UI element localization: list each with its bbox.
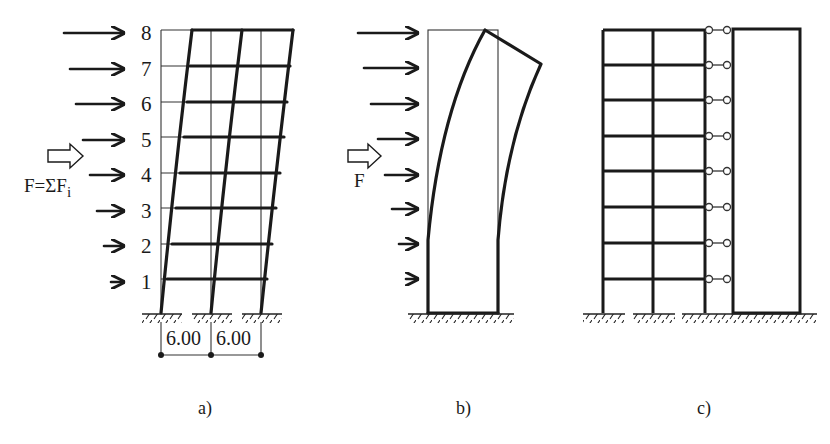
hinge-icon bbox=[724, 97, 731, 104]
floor-label: 6 bbox=[141, 92, 152, 116]
resultant-arrow-icon bbox=[48, 144, 83, 168]
link-member bbox=[706, 204, 731, 211]
hinge-icon bbox=[706, 97, 713, 104]
floor-label: 8 bbox=[141, 21, 152, 45]
floor-label: 3 bbox=[141, 199, 152, 223]
shear-wall-c bbox=[733, 29, 800, 313]
floor-label: 7 bbox=[141, 57, 152, 81]
deformed-wall bbox=[428, 30, 541, 313]
link-member bbox=[706, 240, 731, 247]
hinge-icon bbox=[706, 27, 713, 34]
bay-width-label: 6.00 bbox=[216, 327, 251, 349]
link-member bbox=[706, 168, 731, 175]
floor-label: 2 bbox=[141, 234, 152, 258]
hinge-icon bbox=[706, 62, 713, 69]
deformed-frame bbox=[161, 30, 293, 313]
resultant-label: F bbox=[354, 170, 365, 191]
floor-label: 1 bbox=[141, 270, 152, 294]
hinge-icon bbox=[706, 133, 713, 140]
caption-b: b) bbox=[456, 398, 471, 419]
caption-a: a) bbox=[198, 398, 212, 419]
panel-b: F bbox=[348, 30, 541, 323]
link-member bbox=[706, 27, 731, 34]
hinge-icon bbox=[706, 276, 713, 283]
link-member bbox=[706, 133, 731, 140]
fixed-support-b bbox=[408, 314, 514, 323]
floor-labels: 8 7 6 5 4 3 2 1 bbox=[141, 21, 152, 294]
resultant-arrow-icon bbox=[348, 144, 381, 168]
structural-diagram: 8 7 6 5 4 3 2 1 F=ΣFi bbox=[0, 0, 830, 444]
resultant-label: F=ΣFi bbox=[24, 175, 71, 200]
hinge-icon bbox=[724, 168, 731, 175]
hinge-icon bbox=[724, 62, 731, 69]
pinned-links bbox=[706, 27, 731, 283]
panel-a: 8 7 6 5 4 3 2 1 F=ΣFi bbox=[24, 21, 293, 358]
fixed-supports-a bbox=[142, 314, 282, 323]
panel-c bbox=[583, 27, 817, 324]
hinge-icon bbox=[724, 240, 731, 247]
bay-dimensions: 6.00 6.00 bbox=[158, 322, 264, 358]
hinge-icon bbox=[706, 204, 713, 211]
bay-width-label: 6.00 bbox=[166, 327, 201, 349]
hinge-icon bbox=[724, 133, 731, 140]
hinge-icon bbox=[724, 27, 731, 34]
fixed-supports-c bbox=[583, 314, 817, 323]
hinge-icon bbox=[706, 168, 713, 175]
caption-c: c) bbox=[697, 398, 711, 419]
link-member bbox=[706, 62, 731, 69]
frame-c bbox=[603, 30, 705, 313]
link-member bbox=[706, 97, 731, 104]
floor-label: 5 bbox=[141, 128, 152, 152]
hinge-icon bbox=[724, 204, 731, 211]
hinge-icon bbox=[706, 240, 713, 247]
floor-label: 4 bbox=[141, 163, 152, 187]
hinge-icon bbox=[724, 276, 731, 283]
link-member bbox=[706, 276, 731, 283]
